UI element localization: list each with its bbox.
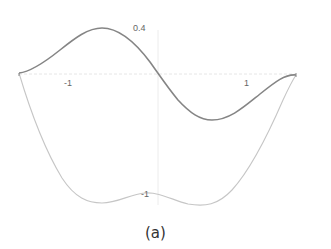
figure-caption: (a) — [145, 224, 166, 242]
tick-label-y-top: 0.4 — [133, 23, 146, 33]
tick-label-x-right: 1 — [244, 78, 249, 88]
tick-label-y-bottom: -1 — [141, 189, 149, 199]
chart-figure: 0.4 -1 1 -1 (a) — [0, 0, 331, 249]
chart-svg: 0.4 -1 1 -1 (a) — [0, 0, 331, 249]
tick-label-x-left: -1 — [64, 78, 72, 88]
